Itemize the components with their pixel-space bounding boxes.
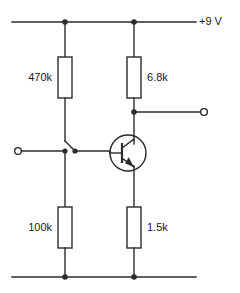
circuit-canvas: +9 V 470k 6.8k 100k 1.5k [0, 0, 240, 293]
resistor-470k-body [58, 57, 72, 98]
junction-ground-left [62, 274, 68, 280]
junction-collector-output [131, 109, 137, 115]
transistor-emitter-arrow [125, 157, 134, 167]
resistor-6k8-label: 6.8k [147, 71, 168, 83]
input-terminal[interactable] [15, 148, 22, 155]
output-terminal[interactable] [201, 109, 208, 116]
schematic-diagram: +9 V 470k 6.8k 100k 1.5k [0, 0, 240, 293]
resistor-100k-label: 100k [28, 221, 52, 233]
resistor-6k8-body [127, 57, 141, 98]
resistor-1k5-label: 1.5k [147, 221, 168, 233]
junction-supply-left [62, 19, 68, 25]
switch-blade[interactable] [65, 141, 74, 150]
junction-supply-right [131, 19, 137, 25]
transistor-collector-slant [122, 139, 134, 148]
resistor-470k-label: 470k [28, 71, 52, 83]
resistor-100k-body [58, 207, 72, 248]
resistor-1k5-body [127, 207, 141, 248]
junction-ground-right [131, 274, 137, 280]
supply-rail-label: +9 V [199, 15, 223, 27]
